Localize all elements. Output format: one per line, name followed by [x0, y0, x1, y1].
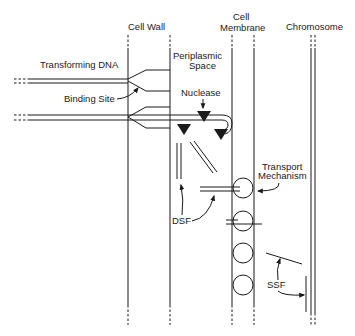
dsf-label: DSF	[172, 215, 191, 226]
ssf-arrow-1	[277, 259, 280, 280]
nuclease-triangle-2	[177, 124, 191, 135]
dsf-arrow-1	[181, 185, 183, 215]
transforming-dna-label: Transforming DNA	[40, 59, 119, 70]
strand-crossing-membrane	[226, 220, 262, 224]
transport-mechanism-arrow	[258, 183, 279, 191]
transport-channel-4	[233, 275, 253, 295]
nuclease-label: Nuclease	[181, 87, 221, 98]
transformation-diagram: Cell Wall Cell Membrane Chromosome Perip…	[0, 0, 355, 336]
cell-membrane-label-2: Membrane	[220, 22, 265, 33]
cell-membrane-label-1: Cell	[233, 11, 249, 22]
ssf-label: SSF	[267, 279, 286, 290]
chromosome	[311, 35, 315, 326]
transport-channel-2	[233, 211, 253, 231]
ssf-arrow-2	[278, 291, 304, 295]
dsf-fragment-vertical	[177, 143, 181, 179]
dsf-arrow-2	[192, 196, 214, 221]
ssf-fragment-diagonal	[266, 253, 302, 264]
cell-membrane	[232, 35, 254, 325]
nuclease-triangle-3	[214, 129, 228, 140]
periplasmic-space-label-2: Space	[189, 60, 216, 71]
chromosome-label: Chromosome	[286, 21, 343, 32]
cell-wall-label: Cell Wall	[128, 21, 165, 32]
transport-channel-3	[233, 243, 253, 263]
transport-mechanism-label-2: Mechanism	[258, 170, 307, 181]
transport-channels	[233, 178, 253, 295]
dsf-fragment-diagonal	[190, 141, 217, 173]
transforming-dna-upper	[14, 70, 170, 91]
transport-channel-1	[233, 178, 253, 198]
dsf-fragment-entering	[200, 187, 240, 191]
cell-wall	[128, 35, 170, 325]
binding-site-label: Binding Site	[64, 93, 115, 104]
